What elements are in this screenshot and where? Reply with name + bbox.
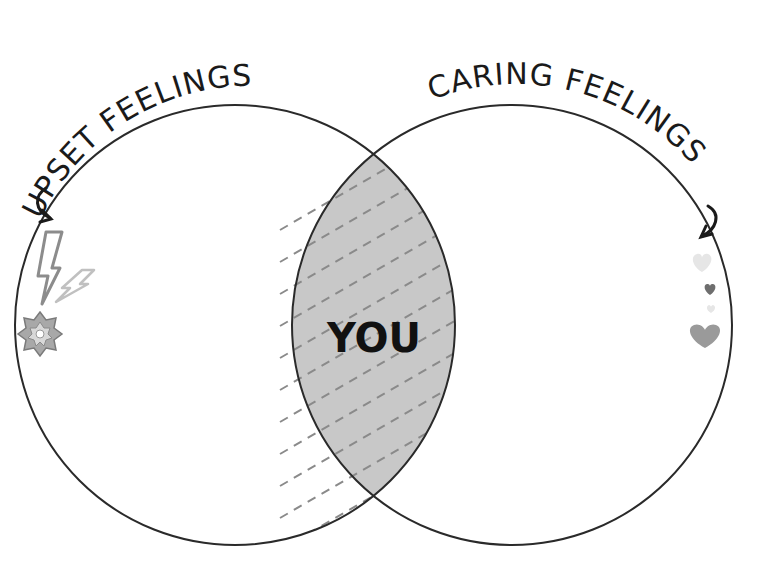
left-set-label: UPSET FEELINGS [15,58,253,223]
explosion-burst-icon [18,312,62,356]
lightning-bolt-large-icon [38,232,62,304]
lightning-bolt-small-icon [56,270,94,302]
heart-large-icon [690,324,720,348]
right-arrow-icon [701,206,716,237]
heart-dark-small-icon [705,284,716,295]
heart-light-icon [693,254,712,272]
intersection-label: YOU [326,315,421,361]
venn-diagram: UPSET FEELINGS CARING FEELINGS YOU [0,0,766,579]
heart-faint-small-icon [707,305,715,313]
